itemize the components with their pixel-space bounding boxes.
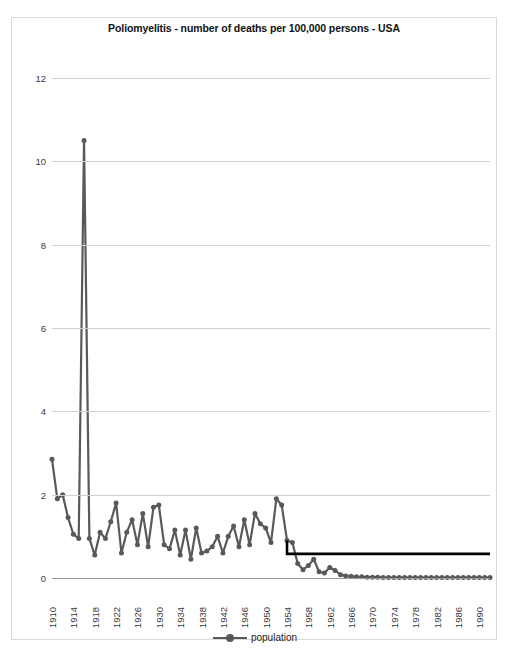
x-tick-label: 1970 xyxy=(367,607,378,628)
legend-item-label: population xyxy=(251,632,297,643)
x-tick-label: 1962 xyxy=(325,607,336,628)
plot-area xyxy=(52,78,490,578)
x-tick-label: 1974 xyxy=(389,607,400,628)
x-tick-label: 1918 xyxy=(90,607,101,628)
x-tick-label: 1986 xyxy=(453,607,464,628)
x-tick-label: 1982 xyxy=(432,607,443,628)
x-axis-line xyxy=(52,578,490,579)
x-tick-label: 1946 xyxy=(239,607,250,628)
y-tick-label: 2 xyxy=(20,489,46,500)
y-axis: 024681012 xyxy=(20,78,46,578)
x-axis: 1910191419181922192619301934193819421946… xyxy=(52,580,490,628)
y-tick-label: 0 xyxy=(20,573,46,584)
x-tick-label: 1978 xyxy=(410,607,421,628)
x-tick-label: 1966 xyxy=(346,607,357,628)
y-tick-label: 8 xyxy=(20,239,46,250)
x-tick-label: 1954 xyxy=(282,607,293,628)
y-tick-label: 10 xyxy=(20,156,46,167)
x-tick-label: 1930 xyxy=(154,607,165,628)
x-tick-label: 1922 xyxy=(111,607,122,628)
y-tick-label: 12 xyxy=(20,73,46,84)
x-tick-label: 1950 xyxy=(261,607,272,628)
legend: population xyxy=(12,632,498,643)
x-tick-label: 1938 xyxy=(197,607,208,628)
x-tick-label: 1926 xyxy=(132,607,143,628)
vaccine-introduction-marker xyxy=(52,78,490,578)
annotation-path xyxy=(287,541,490,554)
x-tick-label: 1942 xyxy=(218,607,229,628)
x-tick-label: 1910 xyxy=(47,607,58,628)
x-tick-label: 1958 xyxy=(303,607,314,628)
y-tick-label: 4 xyxy=(20,406,46,417)
legend-marker-icon xyxy=(213,633,247,643)
x-tick-label: 1990 xyxy=(474,607,485,628)
chart-title: Poliomyelitis - number of deaths per 100… xyxy=(12,22,496,34)
y-tick-label: 6 xyxy=(20,323,46,334)
chart-frame: Poliomyelitis - number of deaths per 100… xyxy=(11,17,497,640)
x-tick-label: 1914 xyxy=(68,607,79,628)
x-tick-label: 1934 xyxy=(175,607,186,628)
